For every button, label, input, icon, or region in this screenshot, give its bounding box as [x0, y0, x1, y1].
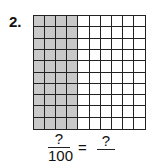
answer-blank: ? [97, 133, 115, 150]
grid-cell [78, 39, 89, 50]
shaded-cell [45, 61, 56, 72]
shaded-cell [45, 16, 56, 27]
equals-sign: = [78, 139, 87, 156]
grid-cell [90, 95, 101, 106]
grid-cell [123, 27, 134, 38]
shaded-cell [56, 95, 67, 106]
shaded-cell [56, 73, 67, 84]
grid-cell [90, 73, 101, 84]
shaded-cell [45, 106, 56, 117]
shaded-cell [45, 118, 56, 129]
shaded-cell [34, 61, 45, 72]
shaded-cell [67, 73, 78, 84]
fraction-denominator: 100 [48, 148, 70, 164]
shaded-cell [34, 73, 45, 84]
problem-number: 2. [9, 13, 22, 30]
grid-cell [112, 27, 123, 38]
shaded-cell [56, 16, 67, 27]
grid-cell [101, 106, 112, 117]
grid-cell [112, 95, 123, 106]
shaded-cell [45, 39, 56, 50]
fraction-numerator: ? [48, 131, 70, 148]
grid-cell [90, 106, 101, 117]
grid-cell [78, 27, 89, 38]
grid-cell [78, 61, 89, 72]
grid-cell [112, 73, 123, 84]
grid-cell [78, 84, 89, 95]
fraction: ? 100 [48, 131, 70, 164]
grid-cell [101, 95, 112, 106]
shaded-cell [34, 106, 45, 117]
shaded-cell [45, 84, 56, 95]
shaded-cell [34, 95, 45, 106]
shaded-cell [45, 27, 56, 38]
shaded-cell [34, 27, 45, 38]
shaded-cell [34, 118, 45, 129]
grid-cell [112, 106, 123, 117]
shaded-cell [67, 16, 78, 27]
shaded-cell [67, 106, 78, 117]
grid-cell [112, 39, 123, 50]
grid-cell [90, 84, 101, 95]
grid-cell [123, 84, 134, 95]
shaded-cell [56, 39, 67, 50]
grid-cell [90, 16, 101, 27]
grid-cell [134, 118, 145, 129]
shaded-cell [56, 61, 67, 72]
shaded-cell [67, 118, 78, 129]
grid-cell [78, 95, 89, 106]
grid-cell [123, 118, 134, 129]
hundred-grid [33, 15, 146, 130]
shaded-cell [34, 84, 45, 95]
grid-cell [101, 27, 112, 38]
shaded-cell [56, 50, 67, 61]
grid-cell [78, 73, 89, 84]
shaded-cell [56, 106, 67, 117]
grid-cell [90, 27, 101, 38]
grid-cell [123, 39, 134, 50]
shaded-cell [67, 39, 78, 50]
shaded-cell [34, 16, 45, 27]
grid-cell [134, 106, 145, 117]
grid-cell [134, 39, 145, 50]
grid-cell [123, 61, 134, 72]
shaded-cell [45, 95, 56, 106]
grid-cell [78, 106, 89, 117]
grid-cell [101, 50, 112, 61]
grid-cell [90, 118, 101, 129]
shaded-cell [67, 84, 78, 95]
grid-cell [90, 61, 101, 72]
shaded-cell [56, 84, 67, 95]
grid-cell [78, 16, 89, 27]
grid-cell [134, 73, 145, 84]
grid-cell [134, 84, 145, 95]
shaded-cell [56, 118, 67, 129]
grid-cell [78, 118, 89, 129]
grid-cell [90, 39, 101, 50]
grid-cell [134, 27, 145, 38]
shaded-cell [67, 50, 78, 61]
grid-cell [123, 50, 134, 61]
grid-cell [101, 118, 112, 129]
grid-cell [134, 16, 145, 27]
shaded-cell [45, 50, 56, 61]
grid-cell [123, 106, 134, 117]
shaded-cell [45, 73, 56, 84]
shaded-cell [67, 61, 78, 72]
grid-cell [123, 95, 134, 106]
shaded-cell [34, 39, 45, 50]
grid-cell [134, 50, 145, 61]
grid-cell [112, 61, 123, 72]
grid-cell [101, 73, 112, 84]
grid-cell [112, 84, 123, 95]
grid-cell [112, 16, 123, 27]
grid-cell [78, 50, 89, 61]
grid-cell [123, 73, 134, 84]
shaded-cell [34, 50, 45, 61]
grid-cell [112, 118, 123, 129]
grid-cell [134, 61, 145, 72]
shaded-cell [56, 27, 67, 38]
shaded-cell [67, 27, 78, 38]
grid-cell [123, 16, 134, 27]
grid-cell [134, 95, 145, 106]
